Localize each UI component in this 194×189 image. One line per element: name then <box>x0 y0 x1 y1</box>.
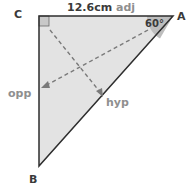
adjacent-length: 12.6cm <box>67 1 112 14</box>
hypotenuse-role-label: hyp <box>106 96 129 109</box>
right-angle-marker <box>39 16 49 26</box>
opposite-role-label: opp <box>8 87 31 100</box>
vertex-c-label: C <box>14 8 22 21</box>
adjacent-side-label: 12.6cm adj <box>67 1 135 14</box>
vertex-b-label: B <box>29 173 37 186</box>
vertex-a-label: A <box>177 10 186 23</box>
angle-a-value: 60° <box>145 18 164 29</box>
adjacent-role: adj <box>116 1 135 14</box>
